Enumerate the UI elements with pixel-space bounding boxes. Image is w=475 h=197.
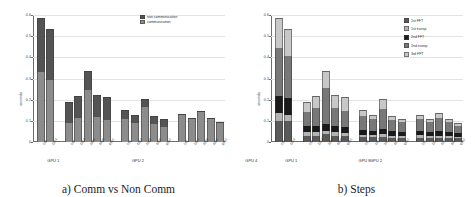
bar-segment-communication [46, 80, 54, 142]
group-label: GPU 1 [47, 158, 59, 163]
bar-segment-2nd-transp [388, 120, 396, 132]
figure-root: seconds 00.10.20.30.40.50.6 512102451210… [0, 0, 475, 197]
group-label: GPU 2 [132, 158, 144, 163]
bar [37, 18, 45, 142]
legend-label: communication [147, 20, 171, 24]
legend-label: 1st transp [411, 27, 426, 31]
bar-segment-non-communication [150, 116, 158, 124]
bar [84, 71, 92, 142]
bar-series-right [271, 15, 463, 142]
bar-segment-non-communication [141, 99, 149, 107]
legend-left: non communicationcommunication [140, 15, 177, 25]
bar-segment-3rd-fft [275, 18, 283, 48]
bar-segment-communication [84, 90, 92, 142]
legend-item: 2nd transp [404, 43, 428, 48]
bar-segment-1st-transp [275, 113, 283, 120]
bar-segment-2nd-transp [445, 122, 453, 132]
y-axis-tick-label: 0.1 [26, 119, 31, 123]
legend-label: 2nd FFT [411, 35, 424, 39]
y-axis-tick-label: 0.2 [26, 98, 31, 102]
legend-label: non communication [147, 15, 177, 19]
bar-segment-2nd-transp [322, 88, 330, 124]
legend-label: 3rd FFT [411, 52, 423, 56]
y-axis-tick-label: 0.2 [264, 98, 269, 102]
panel-steps: seconds 00.10.20.30.40.50.6 512102451210… [238, 0, 475, 197]
plot-area-right: 00.10.20.30.40.50.6 51210245121024204840… [271, 15, 463, 142]
bar [74, 96, 82, 142]
group-label: GPU 2 [370, 158, 382, 163]
group-label: GPU 1 [285, 158, 297, 163]
bar [312, 96, 320, 142]
y-axis-tick-label: 0.5 [26, 34, 31, 38]
bar-series-left [33, 15, 225, 142]
y-axis-tick-label: 0.5 [264, 34, 269, 38]
bar [341, 97, 349, 142]
legend-item: 3rd FFT [404, 52, 428, 57]
legend-swatch [404, 43, 409, 48]
bar-segment-non-communication [37, 18, 45, 72]
bar-segment-2nd-fft [275, 96, 283, 114]
bar-segment-2nd-transp [284, 56, 292, 98]
bar-segment-2nd-fft [284, 98, 292, 115]
y-axis-tick-label: 0.3 [26, 77, 31, 81]
x-axis-tick-label: 512 [126, 139, 132, 146]
legend-swatch [404, 26, 409, 31]
bar-segment-2nd-transp [426, 122, 434, 132]
bar [93, 95, 101, 142]
y-axis-label-left: seconds [19, 92, 23, 105]
bar-segment-3rd-fft [303, 102, 311, 112]
bar-segment-2nd-transp [369, 119, 377, 131]
bar [284, 29, 292, 142]
bar [331, 95, 339, 142]
x-axis-tick-label: 512 [364, 139, 370, 146]
legend-swatch [404, 35, 409, 40]
bar-segment-3rd-fft [312, 96, 320, 108]
bar-segment-3rd-fft [379, 99, 387, 109]
legend-item: 2nd FFT [404, 35, 428, 40]
bar-segment-2nd-fft [322, 124, 330, 131]
y-axis-tick-label: 0.4 [264, 55, 269, 59]
bar [131, 115, 139, 142]
bar [103, 97, 111, 143]
legend-swatch [404, 52, 409, 57]
bar-segment-non-communication [131, 115, 139, 123]
y-axis-tick-mark [31, 142, 33, 143]
panel-caption-right: b) Steps [238, 183, 475, 195]
bar-segment-3rd-fft [341, 97, 349, 111]
bar-segment-2nd-transp [359, 116, 367, 130]
bar-segment-2nd-transp [312, 108, 320, 126]
y-axis-label-right: seconds [257, 92, 261, 105]
bar-segment-non-communication [103, 97, 111, 120]
bar-segment-2nd-transp [331, 108, 339, 126]
bar [141, 99, 149, 142]
panel-comm-vs-noncomm: seconds 00.10.20.30.40.50.6 512102451210… [0, 0, 237, 197]
bar [121, 110, 129, 142]
bar [178, 114, 186, 142]
legend-item: communication [140, 20, 177, 24]
plot-area-left: 00.10.20.30.40.50.6 51210245121024204840… [33, 15, 225, 142]
bar-segment-2nd-transp [379, 109, 387, 129]
y-axis-tick-label: 0.6 [264, 13, 269, 17]
y-axis-tick-label: 0.3 [264, 77, 269, 81]
bar [359, 110, 367, 142]
bar-segment-communication [188, 119, 196, 142]
bar-segment-3rd-fft [284, 29, 292, 56]
bar-segment-non-communication [84, 71, 92, 90]
bar [416, 115, 424, 142]
y-axis-tick-label: 0.4 [26, 55, 31, 59]
bar-segment-communication [178, 115, 186, 142]
bar [379, 99, 387, 142]
bar-segment-2nd-transp [454, 126, 462, 133]
legend-swatch [140, 20, 145, 24]
bar-segment-communication [141, 107, 149, 142]
legend-item: non communication [140, 15, 177, 19]
bar [303, 102, 311, 142]
bar-segment-non-communication [121, 110, 129, 118]
bar-segment-2nd-transp [303, 112, 311, 126]
legend-label: 1st FFT [411, 19, 423, 23]
y-axis-tick-label: 0.6 [26, 13, 31, 17]
legend-swatch [140, 15, 145, 19]
bar-segment-1st-fft [275, 121, 283, 142]
bar [188, 118, 196, 142]
panel-caption-left: a) Comm vs Non Comm [0, 183, 237, 195]
